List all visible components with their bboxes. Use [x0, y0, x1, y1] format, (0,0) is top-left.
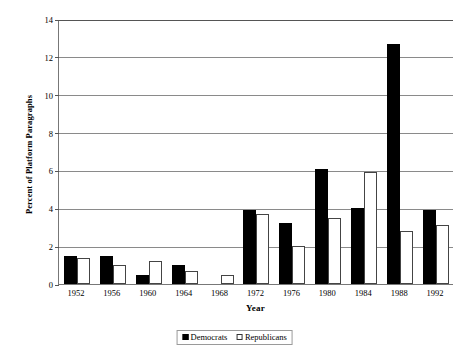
x-axis-tick-label: 1976	[273, 289, 309, 298]
legend-swatch-icon	[236, 334, 242, 340]
y-axis-tick-label: 4	[49, 205, 53, 214]
legend-item-republicans: Republicans	[236, 333, 287, 342]
bar-group	[167, 20, 203, 284]
bar-group	[95, 20, 131, 284]
bars-layer	[59, 20, 453, 284]
bar-democrats-1952	[64, 256, 77, 284]
x-axis-title: Year	[58, 303, 453, 313]
bar-group	[59, 20, 95, 284]
y-axis-tick-label: 8	[49, 130, 53, 139]
bar-republicans-1988	[400, 231, 413, 284]
y-axis-tick-label: 10	[45, 92, 54, 101]
plot-area	[58, 20, 453, 285]
x-axis-tick-labels: 1952195619601964196819721976198019841988…	[58, 289, 453, 303]
y-axis-tick-label: 2	[49, 243, 53, 252]
y-axis-tick-label: 0	[49, 281, 53, 290]
bar-republicans-1976	[292, 246, 305, 284]
bar-republicans-1972	[256, 214, 269, 284]
legend-label: Republicans	[245, 333, 287, 342]
y-axis-tick-label: 6	[49, 167, 53, 176]
bar-democrats-1960	[136, 275, 149, 284]
x-axis-tick-label: 1968	[202, 289, 238, 298]
bar-group	[131, 20, 167, 284]
bar-democrats-1972	[243, 210, 256, 284]
y-axis-tickmark	[55, 285, 59, 286]
x-axis-tick-label: 1964	[166, 289, 202, 298]
bar-group	[310, 20, 346, 284]
x-axis-tick-label: 1988	[381, 289, 417, 298]
bar-democrats-1956	[100, 256, 113, 284]
bar-group	[239, 20, 275, 284]
bar-group	[418, 20, 454, 284]
bar-republicans-1956	[113, 265, 126, 284]
x-axis-tick-label: 1952	[58, 289, 94, 298]
bar-democrats-1976	[279, 223, 292, 284]
bar-democrats-1984	[351, 208, 364, 284]
y-axis-tick-labels: 02468101214	[30, 14, 56, 294]
bar-republicans-1960	[149, 261, 162, 284]
bar-democrats-1992	[423, 210, 436, 284]
legend-item-democrats: Democrats	[182, 333, 227, 342]
x-axis-tick-label: 1956	[94, 289, 130, 298]
y-axis-tick-label: 14	[45, 16, 54, 25]
bar-group	[382, 20, 418, 284]
x-axis-tick-label: 1980	[309, 289, 345, 298]
y-axis-tick-label: 12	[45, 54, 54, 63]
legend-label: Democrats	[191, 333, 228, 342]
bar-republicans-1984	[364, 172, 377, 284]
bar-republicans-1992	[436, 225, 449, 284]
x-axis-tick-label: 1984	[345, 289, 381, 298]
bar-chart: Percent of Platform Paragraphs 024681012…	[0, 0, 469, 357]
bar-republicans-1980	[328, 218, 341, 284]
chart-legend: DemocratsRepublicans	[176, 330, 293, 345]
bar-group	[346, 20, 382, 284]
bar-democrats-1964	[172, 265, 185, 284]
x-axis-tick-label: 1960	[130, 289, 166, 298]
bar-republicans-1952	[77, 258, 90, 285]
x-axis-tick-label: 1992	[417, 289, 453, 298]
bar-republicans-1968	[221, 275, 234, 284]
bar-republicans-1964	[185, 271, 198, 284]
bar-group	[274, 20, 310, 284]
bar-group	[203, 20, 239, 284]
bar-democrats-1988	[387, 44, 400, 284]
x-axis-tick-label: 1972	[238, 289, 274, 298]
bar-democrats-1980	[315, 169, 328, 284]
legend-swatch-icon	[182, 334, 188, 340]
